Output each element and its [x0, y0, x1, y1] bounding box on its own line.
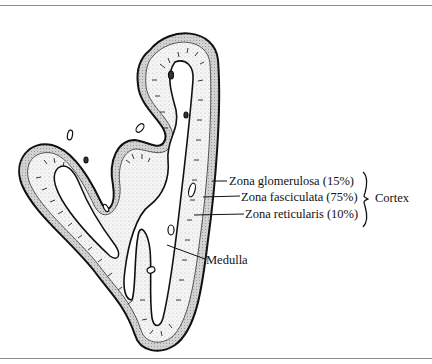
- label-cortex: Cortex: [375, 191, 409, 205]
- label-zona-fasciculata: Zona fasciculata (75%): [241, 190, 358, 204]
- cortex-brace: [363, 172, 368, 227]
- label-zona-glomerulosa: Zona glomerulosa (15%): [229, 174, 354, 188]
- adrenal-gland-illustration: [0, 0, 432, 364]
- label-zona-reticularis: Zona reticularis (10%): [245, 207, 358, 221]
- label-medulla: Medulla: [206, 253, 248, 267]
